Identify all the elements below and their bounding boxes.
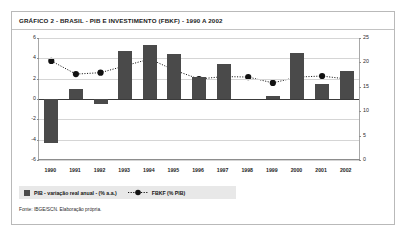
- data-point-1991: [73, 71, 79, 77]
- y-axis-left-tick-mark: [37, 58, 39, 59]
- bar-1992: [94, 99, 108, 104]
- page-title: GRÁFICO 2 - BRASIL - PIB E INVESTIMENTO …: [12, 17, 223, 24]
- x-axis-tick-label-1999: 1999: [266, 167, 278, 173]
- bar-1993: [118, 51, 132, 99]
- y-axis-left-tick-label: -6: [31, 157, 36, 162]
- bar-1994: [143, 45, 157, 99]
- y-axis-left-tick-mark: [37, 119, 39, 120]
- bar-2002: [340, 71, 354, 99]
- x-axis-tick-labels: 1990199119921993199419951996199719981999…: [38, 164, 360, 178]
- chart-legend: PIB - variação real anual - (% a.a.) FBK…: [19, 186, 236, 199]
- data-point-1999: [270, 80, 276, 86]
- x-axis-tick-label-1996: 1996: [192, 167, 204, 173]
- x-axis-tick-label-1997: 1997: [217, 167, 229, 173]
- y-axis-right-tick-mark: [359, 87, 361, 88]
- bar-1997: [217, 64, 231, 99]
- x-axis-tick-label-1991: 1991: [69, 167, 81, 173]
- legend-label-fbkf: FBKF (% PIB): [152, 190, 185, 196]
- x-axis-tick-label-1995: 1995: [168, 167, 180, 173]
- zero-line: [39, 99, 359, 100]
- y-axis-right-tick-label: 10: [363, 108, 369, 113]
- bar-1990: [44, 99, 58, 143]
- bar-1996: [192, 77, 206, 99]
- y-axis-right-tick-label: 20: [363, 59, 369, 64]
- y-axis-left-tick-mark: [37, 140, 39, 141]
- y-axis-left-tick-label: 0: [33, 96, 36, 101]
- bar-1999: [266, 96, 280, 99]
- y-axis-right-tick-label: 25: [363, 35, 369, 40]
- y-axis-left-tick-mark: [37, 99, 39, 100]
- y-axis-left-tick-mark: [37, 38, 39, 39]
- chart-figure: GRÁFICO 2 - BRASIL - PIB E INVESTIMENTO …: [11, 11, 395, 225]
- y-axis-right-tick-label: 0: [363, 157, 366, 162]
- y-axis-right-tick-label: 15: [363, 84, 369, 89]
- y-axis-left-tick-label: 2: [33, 76, 36, 81]
- square-swatch-icon: [24, 190, 30, 196]
- y-axis-left-tick-label: -4: [31, 137, 36, 142]
- gridline: [39, 140, 359, 141]
- plot-area: 6420-2-4-62520151050: [38, 38, 360, 160]
- y-axis-left-tick-label: 4: [33, 55, 36, 60]
- x-axis-line: [38, 159, 360, 160]
- legend-item-pib: PIB - variação real anual - (% a.a.): [24, 190, 117, 196]
- legend-label-pib: PIB - variação real anual - (% a.a.): [34, 190, 117, 196]
- y-axis-right-tick-mark: [359, 160, 361, 161]
- bar-2001: [315, 84, 329, 99]
- x-axis-tick-label-1994: 1994: [143, 167, 155, 173]
- y-axis-right-tick-mark: [359, 38, 361, 39]
- bar-1991: [69, 89, 83, 99]
- y-axis-right-tick-mark: [359, 111, 361, 112]
- plot-wrapper: 6420-2-4-62520151050 1990199119921993199…: [12, 30, 394, 182]
- chart-title-bar: GRÁFICO 2 - BRASIL - PIB E INVESTIMENTO …: [12, 12, 394, 30]
- source-note: Fonte: IBGE/SCN. Elaboração própria.: [19, 207, 101, 212]
- y-axis-left-tick-label: 6: [33, 35, 36, 40]
- x-axis-tick-label-1992: 1992: [94, 167, 106, 173]
- gridline: [39, 38, 359, 39]
- x-axis-tick-label-2001: 2001: [315, 167, 327, 173]
- dotted-line-circle-icon: [128, 189, 148, 196]
- data-point-1992: [97, 70, 103, 76]
- y-axis-right-tick-mark: [359, 136, 361, 137]
- x-axis-tick-label-1993: 1993: [118, 167, 130, 173]
- y-axis-left-tick-mark: [37, 160, 39, 161]
- x-axis-tick-label-2000: 2000: [291, 167, 303, 173]
- y-axis-left-tick-mark: [37, 79, 39, 80]
- x-axis-tick-label-1990: 1990: [45, 167, 57, 173]
- bar-1995: [167, 54, 181, 99]
- x-axis-tick-label-1998: 1998: [241, 167, 253, 173]
- x-axis-tick-label-2002: 2002: [340, 167, 352, 173]
- gridline: [39, 160, 359, 161]
- y-axis-left-tick-label: -2: [31, 116, 36, 121]
- legend-item-fbkf: FBKF (% PIB): [128, 189, 185, 196]
- bar-2000: [290, 53, 304, 99]
- gridline: [39, 58, 359, 59]
- y-axis-right-tick-mark: [359, 62, 361, 63]
- y-axis-right-tick-label: 5: [363, 133, 366, 138]
- gridline: [39, 119, 359, 120]
